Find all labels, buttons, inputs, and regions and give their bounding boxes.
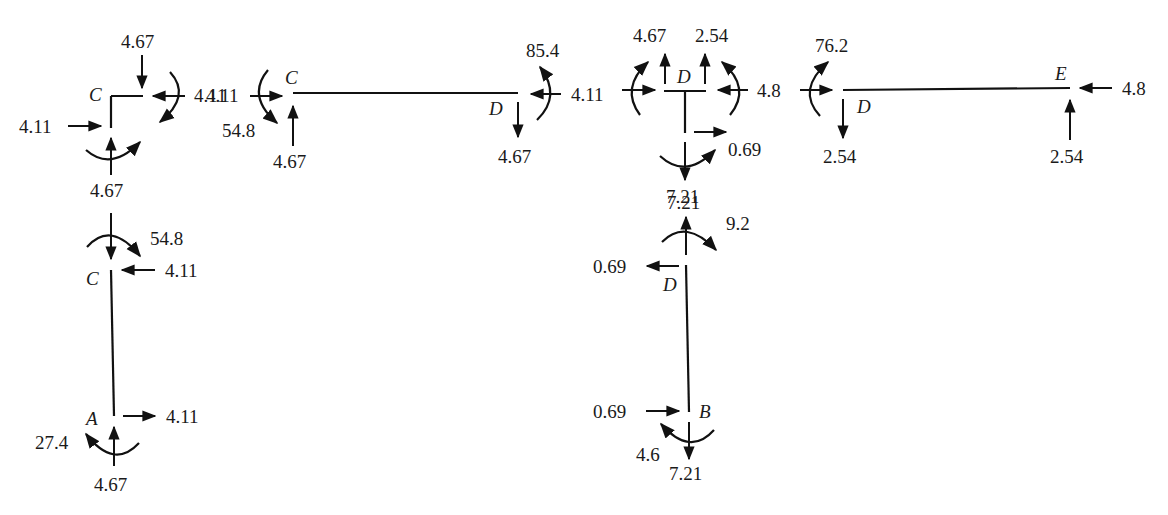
column-ac xyxy=(111,270,114,416)
member-ac: C A 54.8 4.11 4.11 27.4 4.67 xyxy=(35,213,199,495)
force-value: 4.11 xyxy=(206,85,239,106)
joint-c-member xyxy=(111,96,143,128)
moment-arrow xyxy=(86,142,140,159)
moment-value: 54.8 xyxy=(222,120,255,141)
moment-arrow xyxy=(632,62,648,115)
force-value: 4.67 xyxy=(498,146,531,167)
force-value: 2.54 xyxy=(823,146,857,167)
node-label-d: D xyxy=(488,98,503,119)
force-value: 2.54 xyxy=(1050,146,1084,167)
member-cd: C D 4.11 54.8 4.67 85.4 4.67 4.11 xyxy=(206,40,604,172)
force-value: 4.11 xyxy=(19,116,52,137)
moment-arrow xyxy=(662,232,716,250)
member-de: D E 76.2 2.54 4.8 2.54 xyxy=(800,35,1146,167)
force-value: 7.21 xyxy=(669,463,702,484)
joint-c-label: C xyxy=(89,84,102,105)
node-label-c: C xyxy=(285,67,298,88)
force-value: 0.69 xyxy=(593,401,626,422)
force-value: 0.69 xyxy=(728,139,761,160)
node-label-c: C xyxy=(86,268,99,289)
free-body-diagram: C 4.67 4.11 4.11 4.67 C D 4.11 54.8 4.67… xyxy=(0,0,1168,515)
force-value: 4.11 xyxy=(571,84,604,105)
moment-arrow xyxy=(660,150,715,167)
force-value: 0.69 xyxy=(593,256,626,277)
force-value: 4.67 xyxy=(633,25,666,46)
node-label-a: A xyxy=(84,408,98,429)
joint-d: D 4.67 2.54 4.8 0.69 7.21 4.11 xyxy=(571,25,781,207)
force-value: 4.67 xyxy=(90,180,123,201)
force-value: 4.11 xyxy=(165,260,198,281)
force-value: 4.8 xyxy=(1122,78,1146,99)
moment-value: 85.4 xyxy=(526,40,560,61)
node-label-b: B xyxy=(699,401,711,422)
force-value: 2.54 xyxy=(695,25,729,46)
moment-arrow xyxy=(661,424,714,442)
moment-arrow xyxy=(87,235,140,256)
node-label-e: E xyxy=(1054,63,1067,84)
moment-value: 76.2 xyxy=(815,35,848,56)
force-value: 4.11 xyxy=(166,406,199,427)
node-label-d: D xyxy=(662,274,677,295)
member-bd: D B 7.21 9.2 0.69 0.69 4.6 7.21 xyxy=(593,192,750,484)
joint-d-member xyxy=(664,91,706,133)
moment-value: 27.4 xyxy=(35,432,69,453)
moment-arrow xyxy=(86,434,139,455)
force-value: 4.67 xyxy=(94,474,127,495)
moment-value: 9.2 xyxy=(726,213,750,234)
joint-c: C 4.67 4.11 4.11 4.67 xyxy=(19,31,227,201)
force-value: 4.8 xyxy=(757,80,781,101)
column-bd xyxy=(686,265,689,412)
force-value: 4.67 xyxy=(121,31,154,52)
moment-arrow xyxy=(722,62,739,115)
force-value: 4.67 xyxy=(273,151,306,172)
joint-d-label: D xyxy=(676,66,691,87)
force-value: 7.21 xyxy=(667,192,700,213)
moment-value: 54.8 xyxy=(150,228,183,249)
beam-de xyxy=(843,88,1070,90)
node-label-d: D xyxy=(856,96,871,117)
moment-value: 4.6 xyxy=(636,444,660,465)
